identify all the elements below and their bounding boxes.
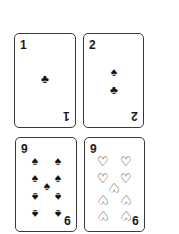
card-9-hearts[interactable]: 9 ♡ ♡ ♡ ♡ ♡ ♡ ♡ ♡ ♡ 9 [84,137,145,232]
heart-outline-icon: ♡ [97,209,110,222]
card-1-clubs[interactable]: 1 ♣ 1 [14,33,76,128]
heart-outline-icon: ♡ [120,193,133,206]
card-9-spades[interactable]: 9 ♠ ♠ ♠ ♠ ♠ ♠ ♠ ♠ ♠ 9 [15,137,77,232]
heart-outline-icon: ♡ [120,172,133,185]
rank-label-top: 1 [20,39,27,51]
heart-outline-icon: ♡ [97,193,110,206]
spade-icon: ♠ [52,208,64,220]
rank-label-bottom: 1 [63,110,70,122]
spade-icon: ♠ [29,172,41,184]
spade-icon: ♠ [52,191,64,203]
rank-label-bottom: 9 [64,214,71,226]
heart-outline-icon: ♡ [120,209,133,222]
rank-label-bottom: 9 [132,214,139,226]
card-2-spades[interactable]: 2 ♠ ♣ 2 [83,33,144,128]
spade-icon: ♠ [29,155,41,167]
spade-icon: ♠ [52,155,64,167]
rank-label-top: 9 [90,143,97,155]
spade-icon: ♠ [29,191,41,203]
spade-icon: ♠ [108,66,120,78]
rank-label-top: 9 [21,143,28,155]
rank-label-top: 2 [89,39,96,51]
heart-outline-icon: ♡ [97,155,110,168]
rank-label-bottom: 2 [131,110,138,122]
heart-outline-icon: ♡ [120,155,133,168]
club-icon: ♣ [39,73,51,85]
spade-icon: ♠ [29,208,41,220]
spade-icon: ♠ [52,172,64,184]
club-icon: ♣ [108,84,120,96]
